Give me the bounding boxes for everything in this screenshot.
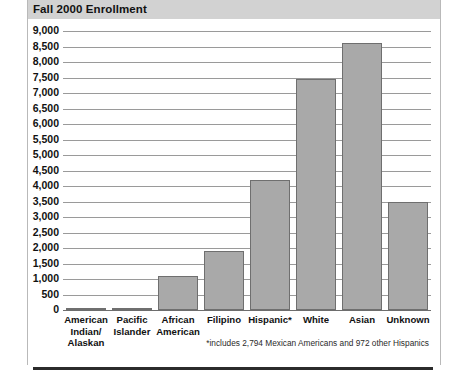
figure-right-border (440, 0, 441, 365)
y-axis-tick-label: 4,500 (0, 164, 59, 176)
bar-series (63, 31, 431, 310)
footnote-hispanic-breakdown: *includes 2,794 Mexican Americans and 97… (0, 338, 429, 348)
bottom-divider-rule (33, 367, 433, 370)
bar (250, 180, 290, 310)
bar (158, 276, 198, 310)
x-axis-label-line: Filipino (207, 314, 241, 325)
x-axis-label-line: Islander (114, 326, 151, 337)
y-axis-tick-label: 6,500 (0, 102, 59, 114)
x-axis-label-line: African (161, 314, 194, 325)
x-axis-label-line: Asian (349, 314, 375, 325)
y-axis-tick-label: 2,000 (0, 241, 59, 253)
bar (204, 251, 244, 310)
y-axis-tick-label: 1,000 (0, 272, 59, 284)
x-axis-label-line: Hispanic* (248, 314, 292, 325)
axis-baseline (63, 310, 431, 311)
chart-title: Fall 2000 Enrollment (33, 3, 147, 15)
y-axis-tick-label: 500 (0, 288, 59, 300)
x-axis-category-labels: AmericanIndian/AlaskanPacificIslanderAfr… (63, 314, 431, 358)
bar (112, 308, 152, 310)
y-axis-tick-label: 3,500 (0, 195, 59, 207)
x-axis-label-line: Unknown (386, 314, 429, 325)
y-axis-tick-label: 6,000 (0, 117, 59, 129)
x-axis-label-line: Pacific (117, 314, 148, 325)
y-axis-tick-label: 9,000 (0, 24, 59, 36)
y-axis-tick-label: 8,500 (0, 40, 59, 52)
x-axis-label-line: American (156, 326, 200, 337)
y-axis-tick-label: 8,000 (0, 55, 59, 67)
bar (296, 79, 336, 310)
x-axis-category-label: Filipino (201, 314, 247, 326)
x-axis-label-line: American (64, 314, 108, 325)
x-axis-category-label: Asian (339, 314, 385, 326)
y-axis-tick-label: 0 (0, 303, 59, 315)
x-axis-category-label: PacificIslander (109, 314, 155, 337)
bar (342, 43, 382, 310)
y-axis-tick-label: 5,500 (0, 133, 59, 145)
x-axis-category-label: Unknown (385, 314, 431, 326)
x-axis-category-label: White (293, 314, 339, 326)
y-axis-tick-label: 1,500 (0, 257, 59, 269)
bar (388, 202, 428, 311)
x-axis-label-line: Indian/ (71, 326, 102, 337)
x-axis-category-label: AfricanAmerican (155, 314, 201, 337)
y-axis-tick-label: 7,500 (0, 71, 59, 83)
x-axis-label-line: White (303, 314, 329, 325)
x-axis-category-label: Hispanic* (247, 314, 293, 326)
bar (66, 308, 106, 310)
y-axis-tick-label: 3,000 (0, 210, 59, 222)
y-axis-tick-label: 4,000 (0, 179, 59, 191)
y-axis-tick-label: 7,000 (0, 86, 59, 98)
enrollment-bar-chart-figure: Fall 2000 Enrollment 9,0008,5008,0007,50… (0, 0, 457, 379)
y-axis-tick-label: 5,000 (0, 148, 59, 160)
y-axis-tick-label: 2,500 (0, 226, 59, 238)
